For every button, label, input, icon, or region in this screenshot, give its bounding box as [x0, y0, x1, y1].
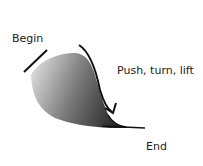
begin-label: Begin	[12, 33, 43, 44]
brush-stroke-diagram	[0, 0, 203, 166]
action-label: Push, turn, lift	[117, 65, 194, 76]
end-label: End	[146, 141, 167, 152]
